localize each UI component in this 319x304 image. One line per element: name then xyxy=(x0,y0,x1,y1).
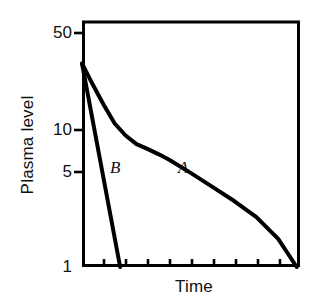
y-tick-label-5: 5 xyxy=(32,162,72,182)
curve-label-b: B xyxy=(110,158,120,178)
y-tick-label-10: 10 xyxy=(32,120,72,140)
y-axis-title: Plasma level xyxy=(18,45,38,245)
figure-container: 50 10 5 1 Plasma level Time B A xyxy=(0,0,319,304)
x-axis-title: Time xyxy=(142,277,246,297)
y-tick-label-50: 50 xyxy=(32,23,72,43)
y-tick-label-1: 1 xyxy=(32,257,72,277)
curve-label-a: A xyxy=(178,158,188,178)
